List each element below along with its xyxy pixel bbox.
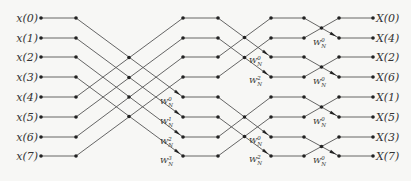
twiddle-factor-label: W2N <box>160 136 173 148</box>
node-dot <box>269 95 273 99</box>
node-dot <box>243 56 247 60</box>
node-dot <box>302 55 306 59</box>
input-label: x(5) <box>16 111 38 124</box>
node-dot <box>337 55 341 59</box>
node-dot <box>371 95 375 99</box>
node-dot <box>74 36 78 40</box>
node-dot <box>269 135 273 139</box>
node-dot <box>127 76 131 80</box>
node-dot <box>74 95 78 99</box>
node-dot <box>74 154 78 158</box>
node-dot <box>216 55 220 59</box>
node-dot <box>39 95 43 99</box>
output-label: X(3) <box>375 131 399 144</box>
input-label: x(2) <box>16 51 38 64</box>
node-dot <box>74 135 78 139</box>
node-dot <box>337 16 341 20</box>
node-dot <box>243 115 247 119</box>
node-dot <box>337 135 341 139</box>
twiddle-factor-label: W1N <box>160 116 173 128</box>
output-label: X(2) <box>375 51 399 64</box>
node-dot <box>320 105 324 109</box>
node-dot <box>216 36 220 40</box>
node-dot <box>39 16 43 20</box>
node-dot <box>269 55 273 59</box>
node-dot <box>181 135 185 139</box>
twiddle-factor-label: W0N <box>160 96 173 108</box>
input-label: x(6) <box>16 131 38 144</box>
node-dot <box>302 75 306 79</box>
node-dot <box>302 95 306 99</box>
output-label: X(7) <box>375 150 399 163</box>
node-dot <box>216 95 220 99</box>
node-dot <box>216 75 220 79</box>
node-dot <box>337 75 341 79</box>
node-dot <box>337 36 341 40</box>
node-dot <box>216 115 220 119</box>
node-dot <box>371 36 375 40</box>
node-dot <box>181 36 185 40</box>
input-label: x(1) <box>16 32 38 45</box>
fft-flow-graph: x(0)x(1)x(2)x(3)x(4)x(5)x(6)x(7)W0NW1NW2… <box>0 0 411 181</box>
input-label: x(7) <box>16 150 38 163</box>
node-dot <box>269 115 273 119</box>
node-dot <box>127 115 131 119</box>
node-dot <box>371 154 375 158</box>
node-dot <box>371 115 375 119</box>
node-dot <box>127 56 131 60</box>
node-dot <box>302 154 306 158</box>
node-dot <box>337 115 341 119</box>
node-dot <box>74 75 78 79</box>
node-dot <box>269 154 273 158</box>
node-dot <box>181 154 185 158</box>
node-dot <box>181 95 185 99</box>
node-dot <box>181 55 185 59</box>
node-dot <box>320 65 324 69</box>
arrow-icon <box>330 71 337 76</box>
node-dot <box>39 55 43 59</box>
node-dot <box>39 135 43 139</box>
output-label: X(1) <box>375 91 399 104</box>
node-dot <box>269 16 273 20</box>
output-label: X(5) <box>375 111 399 124</box>
input-label: x(3) <box>16 71 38 84</box>
node-dot <box>302 36 306 40</box>
node-dot <box>216 16 220 20</box>
node-dot <box>243 36 247 40</box>
node-dot <box>39 75 43 79</box>
node-dot <box>302 135 306 139</box>
twiddle-factor-label: W2N <box>249 75 262 87</box>
node-dot <box>181 75 185 79</box>
node-dot <box>74 55 78 59</box>
node-dot <box>320 26 324 30</box>
node-dot <box>243 135 247 139</box>
node-dot <box>320 145 324 149</box>
node-dot <box>216 135 220 139</box>
node-dot <box>127 95 131 99</box>
arrow-icon <box>330 111 337 116</box>
twiddle-factor-label: W0N <box>313 76 326 88</box>
node-dot <box>302 16 306 20</box>
node-dot <box>337 154 341 158</box>
input-label: x(0) <box>16 12 38 25</box>
node-dot <box>371 135 375 139</box>
twiddle-factor-label: W0N <box>313 37 326 49</box>
node-dot <box>181 16 185 20</box>
node-dot <box>269 75 273 79</box>
node-dot <box>39 36 43 40</box>
node-dot <box>216 154 220 158</box>
node-dot <box>39 115 43 119</box>
node-dot <box>337 95 341 99</box>
twiddle-factor-label: W0N <box>313 155 326 167</box>
input-label: x(4) <box>16 91 38 104</box>
twiddle-factor-label: W0N <box>313 116 326 128</box>
output-label: X(4) <box>375 32 399 45</box>
node-dot <box>371 16 375 20</box>
node-dot <box>371 75 375 79</box>
labels: x(0)x(1)x(2)x(3)x(4)x(5)x(6)x(7)W0NW1NW2… <box>16 12 399 167</box>
node-dot <box>371 55 375 59</box>
output-label: X(6) <box>375 71 399 84</box>
node-dot <box>39 154 43 158</box>
node-dot <box>269 36 273 40</box>
twiddle-factor-label: W3N <box>160 155 173 167</box>
